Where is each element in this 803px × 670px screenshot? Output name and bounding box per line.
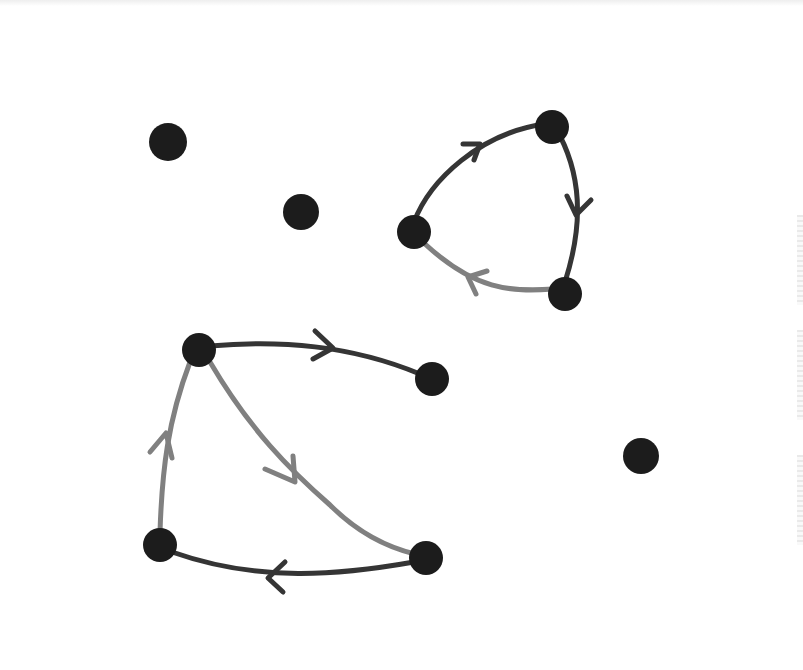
node-f bbox=[182, 333, 216, 367]
edge-d-c bbox=[414, 124, 545, 222]
edge-i-h bbox=[172, 552, 414, 574]
edge-f-i bbox=[210, 362, 415, 554]
node-d bbox=[397, 215, 431, 249]
node-h bbox=[143, 528, 177, 562]
edge-e-d bbox=[425, 244, 553, 290]
node-g bbox=[415, 362, 449, 396]
node-b bbox=[283, 194, 319, 230]
edge-h-f bbox=[160, 362, 190, 532]
arrowhead-icon bbox=[150, 433, 172, 458]
node-j bbox=[623, 438, 659, 474]
edges bbox=[150, 124, 591, 592]
nodes bbox=[143, 110, 659, 575]
node-e bbox=[548, 277, 582, 311]
graph-canvas bbox=[0, 0, 803, 670]
node-c bbox=[535, 110, 569, 144]
node-i bbox=[409, 541, 443, 575]
node-a bbox=[149, 123, 187, 161]
arrowhead-icon bbox=[268, 562, 285, 592]
